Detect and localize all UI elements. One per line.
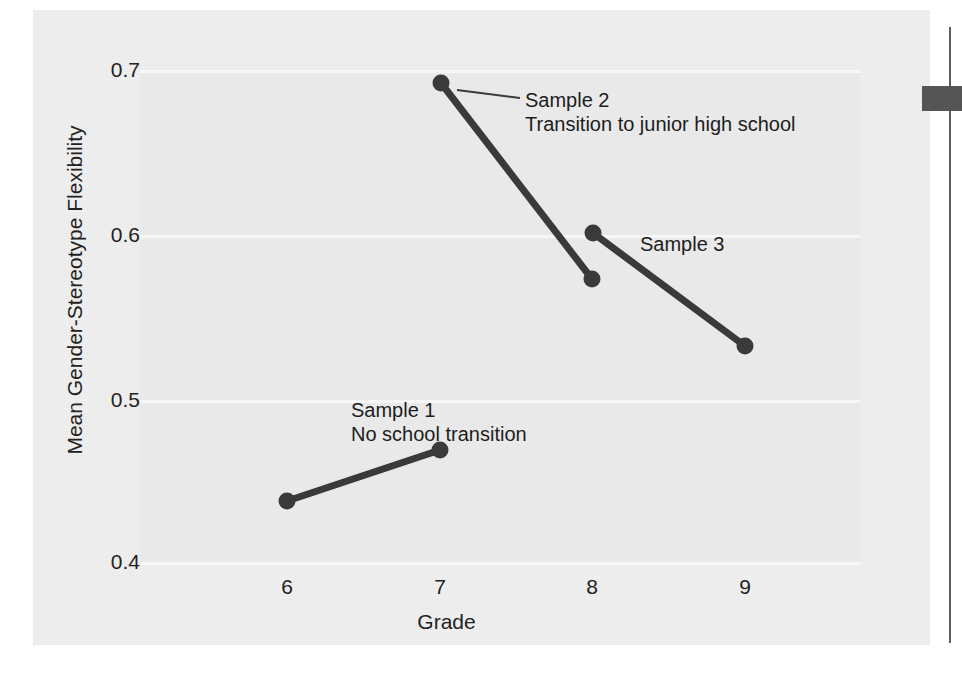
annotation-sample-2-line1: Sample 2 [525, 88, 796, 112]
page-edge-tab [922, 86, 962, 111]
data-point-sample-2-grade-8 [584, 271, 601, 288]
annotation-sample-1: Sample 1 No school transition [351, 398, 527, 447]
line-chart: 0.7 0.6 0.5 0.4 6 7 8 9 Grade Mean Gende… [33, 10, 930, 645]
series-sample-1 [279, 442, 449, 510]
annotation-sample-1-line2: No school transition [351, 422, 527, 446]
data-point-sample-2-grade-7 [433, 75, 450, 92]
annotation-sample-3: Sample 3 [640, 232, 725, 256]
page-root: 0.7 0.6 0.5 0.4 6 7 8 9 Grade Mean Gende… [0, 0, 962, 678]
leader-line-sample-2 [457, 90, 520, 98]
page-edge-rule [949, 27, 951, 643]
annotation-sample-3-line1: Sample 3 [640, 232, 725, 256]
data-point-sample-3-grade-8 [585, 225, 602, 242]
annotation-sample-2-line2: Transition to junior high school [525, 112, 796, 136]
annotation-sample-1-line1: Sample 1 [351, 398, 527, 422]
data-point-sample-3-grade-9 [737, 338, 754, 355]
data-point-sample-1-grade-6 [279, 493, 296, 510]
series-line-sample-1 [287, 450, 440, 501]
annotation-sample-2: Sample 2 Transition to junior high schoo… [525, 88, 796, 137]
